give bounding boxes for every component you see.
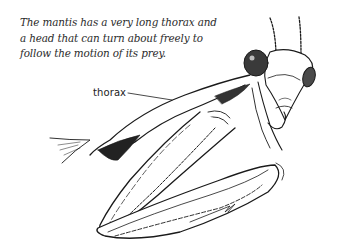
mantis-illustration bbox=[0, 0, 337, 248]
thorax-leader-line bbox=[128, 93, 172, 100]
antenna-left bbox=[270, 18, 276, 52]
antenna-right bbox=[299, 17, 301, 55]
eye-left bbox=[244, 50, 268, 76]
wing-fragment bbox=[50, 138, 90, 163]
